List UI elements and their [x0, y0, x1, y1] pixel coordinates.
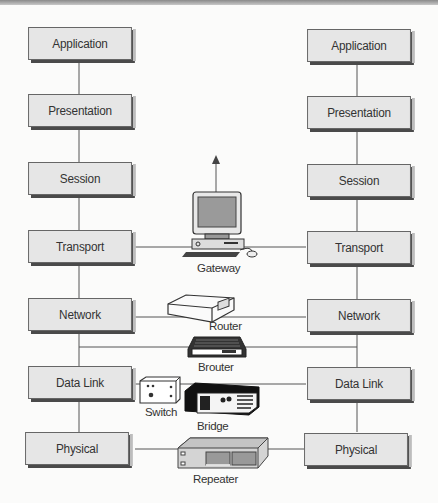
right-layer-application: Application — [307, 29, 411, 62]
layer-label: Network — [338, 309, 380, 323]
layer-label: Session — [339, 174, 379, 188]
left-layer-network: Network — [28, 298, 132, 331]
right-layer-session: Session — [307, 164, 411, 197]
repeater-label: Repeater — [193, 473, 238, 485]
left-layer-data-link: Data Link — [28, 366, 132, 399]
right-layer-network: Network — [307, 299, 411, 332]
arrow-up-icon — [212, 155, 220, 164]
switch-label: Switch — [145, 406, 177, 418]
layer-label: Physical — [335, 443, 377, 457]
layer-label: Presentation — [48, 104, 112, 118]
layer-label: Transport — [335, 241, 383, 255]
gateway-label: Gateway — [197, 262, 240, 274]
layer-label: Application — [331, 39, 386, 53]
right-layer-physical: Physical — [304, 433, 408, 466]
layer-label: Data Link — [335, 377, 383, 391]
left-layer-transport: Transport — [28, 230, 132, 263]
left-layer-application: Application — [28, 27, 132, 60]
computer-icon — [180, 190, 260, 260]
left-layer-session: Session — [28, 162, 132, 195]
layer-label: Transport — [56, 240, 104, 254]
left-layer-presentation: Presentation — [28, 94, 132, 127]
left-layer-physical: Physical — [25, 432, 129, 465]
layer-label: Application — [52, 37, 107, 51]
layer-label: Data Link — [56, 376, 104, 390]
right-layer-data-link: Data Link — [307, 367, 411, 400]
layer-label: Presentation — [327, 106, 391, 120]
router-label: Router — [209, 320, 242, 332]
layer-label: Network — [59, 308, 101, 322]
bridge-icon — [183, 381, 261, 417]
right-layer-presentation: Presentation — [307, 96, 411, 129]
brouter-icon — [186, 335, 248, 361]
switch-icon — [138, 375, 184, 405]
brouter-label: Brouter — [198, 361, 234, 373]
bridge-label: Bridge — [197, 420, 228, 432]
layer-label: Session — [60, 172, 100, 186]
repeater-icon — [176, 436, 270, 470]
layer-label: Physical — [56, 442, 98, 456]
right-layer-transport: Transport — [307, 231, 411, 264]
